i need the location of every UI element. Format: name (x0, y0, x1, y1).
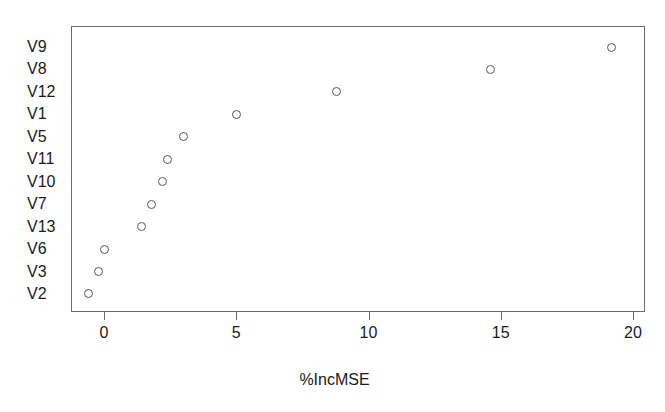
y-axis-label-v9: V9 (27, 39, 47, 55)
variable-importance-chart: V9V8V12V1V5V11V10V7V13V6V3V2 05101520 %I… (0, 0, 665, 412)
x-axis-tick-mark-0 (104, 312, 105, 320)
x-axis-tick-label-0: 0 (100, 325, 109, 341)
y-axis-label-v8: V8 (27, 61, 47, 77)
y-axis-label-v1: V1 (27, 106, 47, 122)
y-axis-label-v13: V13 (27, 219, 55, 235)
x-axis-title: %IncMSE (0, 371, 665, 389)
x-axis-tick-label-10: 10 (360, 325, 378, 341)
y-axis-label-v3: V3 (27, 264, 47, 280)
y-axis-label-v10: V10 (27, 174, 55, 190)
x-axis-tick-label-20: 20 (624, 325, 642, 341)
x-axis-tick-label-5: 5 (232, 325, 241, 341)
y-axis-label-v6: V6 (27, 241, 47, 257)
y-axis-label-v11: V11 (27, 151, 54, 167)
x-axis-tick-mark-5 (236, 312, 237, 320)
y-axis-label-v7: V7 (27, 196, 47, 212)
y-axis-label-v12: V12 (27, 84, 55, 100)
y-axis-label-v2: V2 (27, 286, 47, 302)
plot-area-frame (71, 26, 645, 312)
y-axis-label-v5: V5 (27, 129, 47, 145)
x-axis-tick-label-15: 15 (492, 325, 510, 341)
x-axis-tick-mark-20 (633, 312, 634, 320)
x-axis-tick-mark-10 (369, 312, 370, 320)
x-axis-title-label: %IncMSE (299, 371, 369, 389)
x-axis-tick-mark-15 (501, 312, 502, 320)
